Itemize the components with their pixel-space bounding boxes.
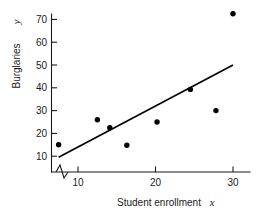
y-tick-label-20: 20	[36, 128, 48, 139]
x-tick-label-10: 10	[72, 177, 84, 188]
y-tick-label-30: 30	[36, 105, 48, 116]
x-axis-title: Student enrollment x	[117, 197, 215, 208]
chart-canvas: 70 60 50 40 30 20 10 10 20 30 Student en…	[0, 0, 261, 219]
y-tick-label-50: 50	[36, 60, 48, 71]
y-tick-label-60: 60	[36, 37, 48, 48]
data-point	[154, 119, 159, 124]
data-point	[107, 125, 112, 130]
x-axis-title-text: Student enrollment	[117, 197, 201, 208]
data-point	[95, 117, 100, 122]
y-axis-title-variable: y	[11, 19, 22, 25]
x-tick-label-20: 20	[150, 177, 162, 188]
y-axis-title-text: Burglaries	[11, 43, 22, 88]
y-tick-label-40: 40	[36, 82, 48, 93]
y-tick-label-10: 10	[36, 151, 48, 162]
data-point	[213, 108, 218, 113]
x-tick-label-30: 30	[227, 177, 239, 188]
data-point	[188, 87, 193, 92]
data-point	[124, 143, 129, 148]
scatter-plot-figure: 70 60 50 40 30 20 10 10 20 30 Student en…	[0, 0, 261, 219]
data-point	[230, 11, 235, 16]
data-point	[56, 142, 61, 147]
x-axis-title-variable: x	[209, 197, 215, 208]
y-tick-label-70: 70	[36, 14, 48, 25]
